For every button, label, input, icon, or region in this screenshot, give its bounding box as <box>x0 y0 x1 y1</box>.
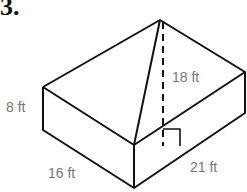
label-width: 21 ft <box>190 159 217 175</box>
prism-pyramid-diagram: 18 ft 8 ft 16 ft 21 ft <box>0 0 247 192</box>
right-angle-marker <box>163 129 180 146</box>
label-box-height: 8 ft <box>6 99 26 115</box>
label-pyramid-height: 18 ft <box>172 69 199 85</box>
pyramid-edge <box>134 20 160 145</box>
label-length: 16 ft <box>48 165 75 181</box>
box-top-face <box>43 20 245 145</box>
